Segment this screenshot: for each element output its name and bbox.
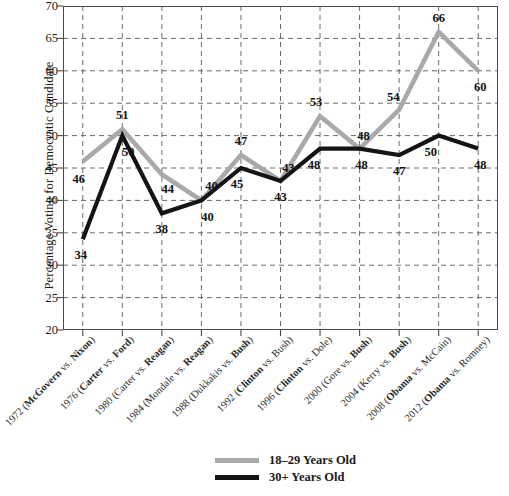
y-tick-45: 45 (32, 161, 58, 176)
y-tick-40: 40 (32, 193, 58, 208)
value-label-s0-i2: 44 (162, 182, 175, 197)
value-label-s1-i8: 47 (393, 164, 406, 179)
x-tick-label-10: 2012 (Obama vs. Romney) (403, 334, 492, 423)
legend-entry-0[interactable]: 18–29 Years Old (0, 452, 509, 469)
x-tick-label-5: 1992 (Clinton vs. Bush) (214, 334, 294, 414)
value-label-s1-i1: 50 (122, 144, 135, 159)
value-label-s1-i7: 48 (355, 157, 368, 172)
value-label-s0-i1: 51 (116, 108, 129, 123)
y-tick-60: 60 (32, 63, 58, 78)
legend-label-1: 30+ Years Old (269, 470, 344, 485)
chart-root: Percentage Voting for Democratic Candida… (0, 0, 509, 496)
series-lines (63, 6, 498, 330)
y-axis-tick-labels: 7065605550454035302520 (30, 0, 58, 340)
y-tick-50: 50 (32, 128, 58, 143)
legend-entry-1[interactable]: 30+ Years Old (0, 469, 509, 486)
y-tick-55: 55 (32, 96, 58, 111)
x-tick-label-6: 1996 (Clinton vs. Dole) (255, 334, 334, 413)
value-label-s0-i0: 46 (73, 171, 86, 186)
value-label-s0-i6: 53 (310, 95, 323, 110)
x-tick-label-4: 1988 (Dukkakis vs. Bush) (169, 334, 254, 419)
legend-swatch-icon-0 (215, 458, 259, 464)
value-label-s1-i5: 43 (274, 189, 287, 204)
value-label-s1-i10: 48 (474, 157, 487, 172)
legend-swatch-icon-1 (215, 475, 259, 481)
value-label-s0-i10: 60 (474, 79, 487, 94)
value-label-s0-i4: 47 (235, 134, 248, 149)
y-tick-70: 70 (32, 0, 58, 14)
chart-legend: 18–29 Years Old30+ Years Old (0, 452, 509, 486)
value-label-s0-i8: 54 (387, 89, 400, 104)
value-label-s0-i5: 43 (282, 160, 295, 175)
y-tick-35: 35 (32, 225, 58, 240)
value-label-s1-i4: 45 (231, 177, 244, 192)
value-label-s1-i9: 50 (424, 144, 437, 159)
y-tick-25: 25 (32, 290, 58, 305)
value-label-s0-i7: 48 (357, 128, 370, 143)
y-tick-30: 30 (32, 258, 58, 273)
x-tick-label-8: 2004 (Kerry vs. Bush) (339, 334, 413, 408)
plot-area: 4651444047435348546660345038404543484847… (63, 6, 498, 330)
y-tick-20: 20 (32, 323, 58, 338)
x-tick-label-7: 2000 (Gore vs. Bush) (301, 334, 373, 406)
y-tick-65: 65 (32, 31, 58, 46)
value-label-s1-i2: 38 (156, 222, 169, 237)
x-tick-label-1: 1976 (Carter vs. Ford) (58, 334, 136, 412)
x-axis-tick-labels: 1972 (McGovern vs. Nixon)1976 (Carter vs… (63, 334, 498, 454)
value-label-s0-i9: 66 (432, 10, 445, 25)
legend-label-0: 18–29 Years Old (269, 453, 356, 468)
value-label-s1-i3: 40 (201, 210, 214, 225)
value-label-s1-i6: 48 (308, 157, 321, 172)
x-tick-label-2: 1980 (Carter vs. Reagan) (92, 334, 175, 417)
value-label-s1-i0: 34 (75, 248, 88, 263)
value-label-s0-i3: 40 (205, 179, 218, 194)
